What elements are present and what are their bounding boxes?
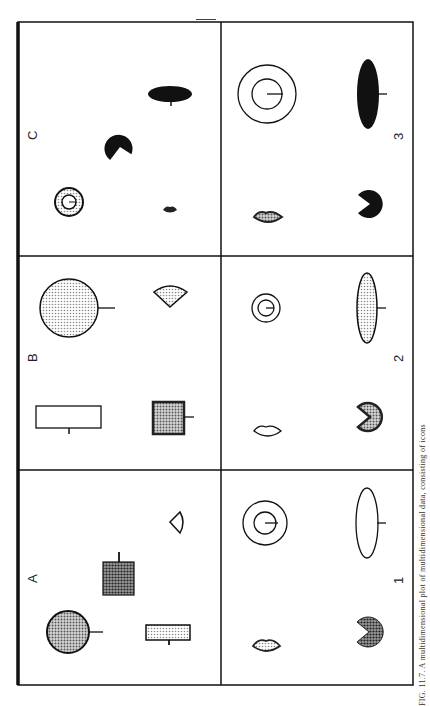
dotted-circle-icon (47, 611, 103, 653)
dotted-lips-icon (253, 640, 280, 651)
small-concentric-circles-icon (252, 294, 280, 322)
dotted-ring-icon (55, 188, 83, 216)
panel-grid (18, 22, 413, 685)
concentric-circles-icon (243, 501, 287, 545)
dark-dotted-square-icon (153, 402, 194, 434)
panel-2: 2 (252, 273, 406, 436)
panel-1: 1 (243, 488, 406, 651)
concentric-circles-icon (238, 65, 296, 123)
icon-plot-figure: C 3 B (0, 0, 430, 706)
large-dotted-circle-icon (40, 279, 115, 337)
panel-3: 3 (238, 59, 406, 222)
dotted-lips-icon (254, 212, 282, 222)
panel-label-2: 2 (391, 355, 406, 362)
dotted-vertical-ellipse-icon (357, 273, 386, 343)
panel-label-1: 1 (391, 577, 406, 584)
small-lips-icon (163, 206, 177, 212)
open-fan-icon (170, 512, 183, 533)
black-pacman-icon (102, 133, 134, 161)
panel-b: B (25, 279, 194, 434)
dark-dotted-square-icon (103, 552, 134, 595)
panel-label-b: B (25, 353, 40, 362)
dotted-pacman-icon (358, 403, 382, 431)
open-lips-icon (254, 426, 281, 436)
light-dotted-rectangle-icon (146, 625, 190, 645)
panel-label-c: C (25, 131, 40, 140)
figure-caption: FIG. 11.7. A multidimensional plot of mu… (418, 424, 427, 706)
panel-a: A (25, 512, 190, 653)
dotted-fan-icon (154, 286, 187, 307)
dark-dotted-pacman-icon (357, 617, 383, 647)
panel-label-3: 3 (391, 133, 406, 140)
panel-label-a: A (25, 574, 40, 583)
black-pacman-icon (358, 190, 383, 218)
open-vertical-ellipse-icon (356, 488, 386, 558)
panel-c: C (25, 86, 192, 216)
black-ellipse-icon (148, 86, 192, 106)
black-vertical-ellipse-icon (357, 59, 387, 129)
white-rectangle-icon (36, 406, 101, 434)
